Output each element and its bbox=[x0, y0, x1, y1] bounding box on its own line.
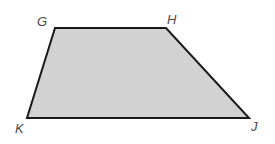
vertex-label-g: G bbox=[37, 15, 47, 28]
geometry-figure-canvas: G H J K bbox=[0, 0, 275, 144]
vertex-label-j: J bbox=[251, 120, 258, 133]
vertex-label-h: H bbox=[167, 13, 176, 26]
vertex-label-k: K bbox=[15, 122, 24, 135]
trapezoid-polygon bbox=[27, 28, 249, 118]
